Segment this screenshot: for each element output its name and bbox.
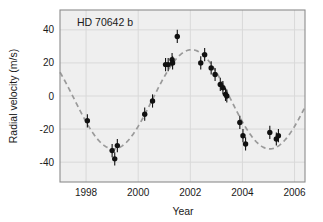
data-point (170, 60, 175, 65)
y-tick-label: -20 (40, 124, 55, 135)
x-tick-label: 2000 (127, 187, 150, 198)
x-tick-label: 2004 (231, 187, 254, 198)
x-tick-label: 2006 (283, 187, 306, 198)
data-point (208, 65, 213, 70)
data-point (109, 148, 114, 153)
x-axis-title: Year (172, 205, 194, 217)
data-point (115, 143, 120, 148)
data-point (142, 111, 147, 116)
y-tick-label: 20 (43, 57, 55, 68)
data-point (150, 98, 155, 103)
data-point (237, 120, 242, 125)
y-tick-label: 0 (48, 91, 54, 102)
data-point (202, 52, 207, 57)
data-point (276, 133, 281, 138)
x-tick-label: 2002 (179, 187, 202, 198)
data-point (220, 85, 225, 90)
data-point (243, 141, 248, 146)
data-point (198, 60, 203, 65)
data-point (240, 133, 245, 138)
x-tick-label: 1998 (75, 187, 98, 198)
plot-title-annotation: HD 70642 b (77, 16, 133, 28)
y-tick-label: -40 (40, 157, 55, 168)
data-point (212, 72, 217, 77)
data-point (267, 130, 272, 135)
data-point (112, 156, 117, 161)
data-point (224, 93, 229, 98)
plot-canvas: 40200-20-40 19982000200220042006 Year Ra… (0, 0, 323, 222)
y-tick-label: 40 (43, 24, 55, 35)
data-point (85, 118, 90, 123)
radial-velocity-figure: 40200-20-40 19982000200220042006 Year Ra… (0, 0, 323, 222)
y-axis-title: Radial velocity (m/s) (7, 49, 19, 144)
data-point (175, 34, 180, 39)
